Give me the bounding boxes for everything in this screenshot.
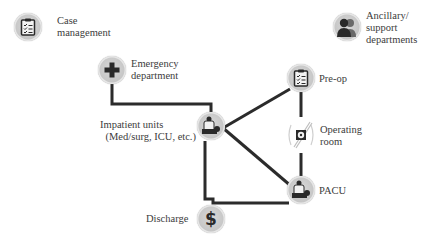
- label-line: Impatient units: [100, 119, 196, 131]
- label-line: department: [131, 70, 179, 82]
- discharge-label: Discharge: [146, 213, 188, 225]
- radiation-scalpel-icon: [286, 119, 316, 151]
- preop-label: Pre-op: [319, 73, 347, 85]
- edge-emergency-inpatient: [112, 84, 211, 112]
- people-group-icon: [336, 17, 358, 37]
- dollar-sign-icon: $: [203, 210, 219, 228]
- patient-bed-icon: [201, 116, 221, 136]
- care-flow-diagram: Case management Ancillary/ support depar…: [0, 0, 444, 244]
- medical-cross-icon: [104, 62, 120, 78]
- preop-node: [287, 64, 315, 92]
- pacu-label: PACU: [319, 185, 346, 197]
- label-line: Pre-op: [319, 73, 347, 85]
- ancillary-node: [333, 13, 361, 41]
- case-management-label: Case management: [57, 15, 111, 39]
- inpatient-node: [197, 112, 225, 140]
- label-line: Ancillary/: [366, 10, 417, 22]
- label-line: Operating: [320, 124, 362, 136]
- emergency-label: Emergency department: [131, 58, 179, 82]
- edge-inpatient-pacu: [223, 128, 291, 186]
- operating-room-node: [286, 119, 316, 151]
- edge-inpatient-preop: [223, 89, 290, 128]
- label-line: support: [366, 22, 417, 34]
- label-line: (Med/surg, ICU, etc.): [100, 131, 196, 143]
- clipboard-checklist-icon: [293, 69, 309, 87]
- pacu-node: [287, 176, 315, 204]
- case-management-node: [14, 13, 42, 41]
- inpatient-label: Impatient units (Med/surg, ICU, etc.): [100, 119, 196, 143]
- label-line: PACU: [319, 185, 346, 197]
- label-line: departments: [366, 34, 417, 46]
- emergency-node: [98, 56, 126, 84]
- label-line: room: [320, 136, 362, 148]
- svg-text:$: $: [205, 210, 217, 228]
- operating-room-label: Operating room: [320, 124, 362, 148]
- label-line: Discharge: [146, 213, 188, 225]
- label-line: Emergency: [131, 58, 179, 70]
- patient-bed-icon: [291, 180, 311, 200]
- ancillary-label: Ancillary/ support departments: [366, 10, 417, 46]
- clipboard-checklist-icon: [20, 18, 36, 36]
- label-line: Case: [57, 15, 111, 27]
- discharge-node: $: [197, 205, 225, 233]
- label-line: management: [57, 27, 111, 39]
